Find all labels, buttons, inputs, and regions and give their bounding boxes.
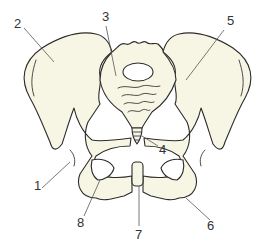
label-4: 4 xyxy=(159,143,166,156)
leader-line-6 xyxy=(186,198,210,220)
pubic-symphysis xyxy=(132,162,143,186)
label-6: 6 xyxy=(207,219,214,232)
pelvis-diagram xyxy=(0,0,275,250)
label-2: 2 xyxy=(14,17,21,30)
label-5: 5 xyxy=(227,14,234,27)
label-8: 8 xyxy=(77,216,84,229)
label-7: 7 xyxy=(135,228,142,241)
label-1: 1 xyxy=(34,179,41,192)
leader-line-1 xyxy=(42,162,70,188)
sacral-canal xyxy=(123,63,153,81)
label-3: 3 xyxy=(102,10,109,23)
